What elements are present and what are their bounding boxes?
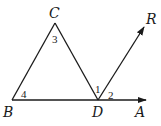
point-label-a: A [133, 104, 145, 120]
angle-label-2: 2 [108, 89, 114, 101]
point-label-d: D [91, 104, 103, 120]
segment-bc [12, 23, 55, 100]
angle-label-1: 1 [95, 83, 101, 95]
segment-cd [55, 23, 98, 100]
ray-dr [98, 27, 144, 100]
geometry-diagram: C B D A R 3 4 1 2 [0, 0, 161, 126]
point-label-c: C [49, 5, 60, 21]
angle-label-3: 3 [52, 33, 58, 45]
point-label-r: R [145, 11, 157, 27]
angle-label-4: 4 [21, 88, 27, 100]
point-label-b: B [2, 104, 13, 120]
